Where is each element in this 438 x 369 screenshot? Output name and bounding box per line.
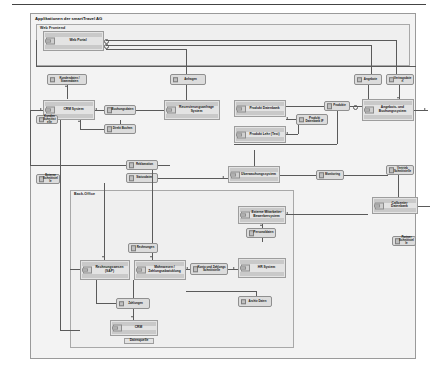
component-externe-mitarbeiter[interactable]: Externe Mitarbeiter Bewerbersystem	[238, 206, 286, 224]
package-back-office-label: Back-Office	[74, 192, 95, 196]
component-label: Produkt Lehr (Test)	[245, 133, 284, 137]
connector	[344, 175, 388, 176]
connector	[120, 120, 121, 124]
component-datenquelle[interactable]: Datenquelle	[124, 338, 154, 344]
interface-label: Partner Schnittstelle	[399, 236, 414, 246]
interface-archivdaten[interactable]: Archiv Daten	[238, 296, 272, 307]
interface-label: Angebote	[361, 78, 380, 81]
connector	[398, 175, 399, 197]
component-produkt-datenbank[interactable]: Produkt Datenbank	[234, 100, 286, 117]
arrow	[260, 224, 262, 226]
interface-label: Personaldaten	[253, 231, 274, 234]
connector	[104, 183, 105, 260]
interface-direktbuchung[interactable]: Direkt Buchen	[104, 124, 136, 134]
connector	[106, 45, 371, 46]
component-reservierungsanfrage[interactable]: Reservierungsanfrage System	[164, 100, 220, 120]
connector	[133, 309, 134, 320]
connector	[256, 291, 257, 296]
component-rechnungswesen[interactable]: Rechnungswesen (SAP)	[80, 260, 130, 280]
interface-konto-zahlung[interactable]: Konto und Zahlungs Schnittstelle	[190, 263, 228, 275]
interface-kundendaten[interactable]: Kundendaten / Stammdaten	[47, 74, 87, 85]
component-label: Produkt Datenbank	[245, 107, 284, 111]
component-label: CRM	[121, 326, 156, 330]
interface-vertrieb[interactable]: Vertrieb Schnittstelle	[386, 165, 414, 175]
node-band-top	[240, 260, 284, 264]
arrow	[65, 85, 67, 87]
connector	[234, 144, 337, 145]
interface-socket	[104, 39, 109, 44]
interface-reklamation[interactable]: Reklamation	[126, 160, 158, 170]
interface-socket	[104, 44, 109, 49]
interface-label: Monitoring	[323, 173, 342, 176]
connector	[136, 110, 164, 111]
interface-vertragsdaten[interactable]: Vertragsdaten	[386, 74, 414, 85]
connector	[30, 110, 31, 165]
node-band-bottom	[45, 45, 102, 49]
interface-zahlungen[interactable]: Zahlungen	[116, 298, 150, 309]
connector	[67, 85, 68, 99]
arrow	[286, 117, 288, 119]
interface-produkt-db[interactable]: Produkt Datenbank IF	[296, 114, 328, 125]
arrow	[222, 176, 224, 178]
component-callcenter-datenbank[interactable]: Callcenter Datenbank	[372, 197, 418, 214]
top-rule	[12, 4, 426, 5]
interface-label: Zahlungen	[123, 302, 148, 305]
arrow	[40, 108, 42, 110]
connector	[371, 45, 372, 76]
connector	[186, 291, 256, 292]
node-band-bottom	[240, 272, 284, 276]
connector	[36, 40, 37, 66]
node-band-top	[45, 102, 93, 106]
arrow	[131, 316, 133, 318]
component-label: Überwachungssystem	[239, 173, 278, 177]
arrow	[286, 212, 288, 214]
interface-socket	[353, 105, 358, 110]
component-label: Angebots- und Buchungssystem	[373, 106, 412, 114]
interface-extern[interactable]: Externe Schnittstelle	[36, 174, 60, 184]
connector	[96, 280, 97, 303]
interface-label: Rechnungen	[135, 246, 156, 249]
interface-partner[interactable]: Partner Schnittstelle	[392, 236, 416, 246]
connector	[418, 206, 430, 207]
arrow	[233, 267, 235, 269]
interface-angebote[interactable]: Angebote	[354, 74, 382, 85]
interface-buchungsdaten[interactable]: Buchungsdaten	[104, 105, 136, 115]
arrow	[78, 120, 80, 122]
component-label: Externe Mitarbeiter Bewerbersystem	[249, 211, 284, 219]
connector	[280, 175, 316, 176]
connector	[186, 49, 187, 76]
component-crm-archiv[interactable]: CRM	[110, 320, 158, 336]
connector	[298, 125, 299, 134]
connector	[286, 106, 324, 107]
package-web-frontend-label: Web Frontend	[40, 26, 65, 30]
connector	[254, 150, 255, 166]
component-web-portal[interactable]: Web Portal	[43, 31, 104, 51]
interface-statusdaten[interactable]: Statusdaten	[126, 173, 158, 183]
interface-label: Konto und Zahlungs Schnittstelle	[197, 266, 226, 272]
node-band-bottom	[364, 115, 412, 119]
node-band-bottom	[82, 274, 128, 278]
interface-kunden[interactable]: Kunden Schnittstelle	[36, 115, 58, 124]
interface-monitoring[interactable]: Monitoring	[316, 170, 344, 180]
interface-produkte[interactable]: Produkte	[324, 101, 350, 111]
connector	[337, 111, 338, 144]
arrow	[150, 256, 152, 258]
component-label: HR System	[249, 266, 284, 270]
node-band-bottom	[136, 274, 184, 278]
component-angebots-buchungssystem[interactable]: Angebots- und Buchungssystem	[362, 99, 414, 121]
interface-anfragen[interactable]: Anfragen	[170, 74, 206, 85]
component-produkt-lehr[interactable]: Produkt Lehr (Test)	[234, 126, 286, 143]
interface-label: Buchungsdaten	[111, 108, 134, 111]
component-hr-system[interactable]: HR System	[238, 258, 286, 278]
arrow	[424, 108, 426, 110]
interface-label: Externe Schnittstelle	[43, 174, 58, 184]
connector	[396, 40, 397, 76]
component-ueberwachungssystem[interactable]: Überwachungssystem	[228, 166, 280, 183]
component-mahnwesen[interactable]: Mahnwesen / Zahlungsabwicklung	[134, 260, 186, 280]
interface-label: Direkt Buchen	[111, 127, 134, 130]
connector	[36, 66, 416, 67]
interface-label: Kunden Schnittstelle	[43, 115, 56, 125]
connector	[158, 178, 228, 179]
interface-personaldaten[interactable]: Personaldaten	[246, 228, 276, 238]
interface-rechnungen[interactable]: Rechnungen	[128, 243, 158, 253]
